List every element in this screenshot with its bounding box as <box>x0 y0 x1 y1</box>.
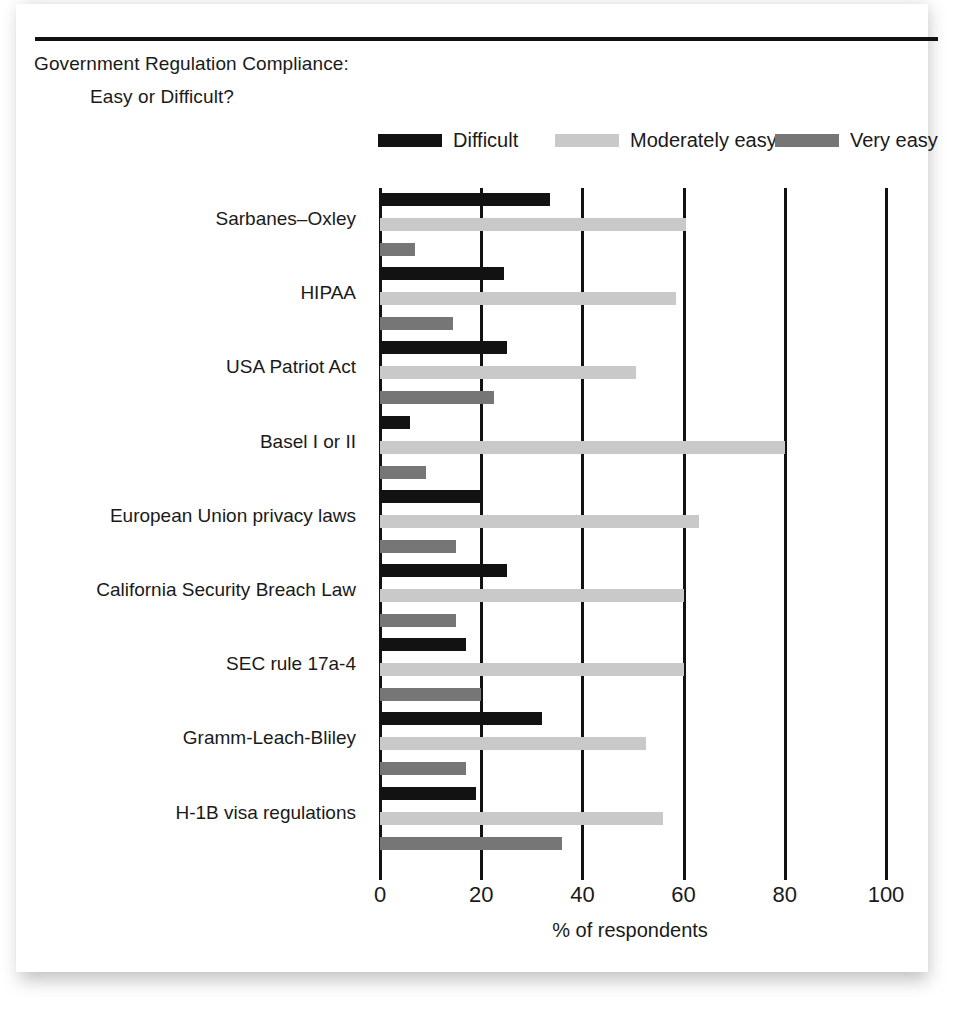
bar <box>380 638 466 651</box>
bar <box>380 466 426 479</box>
bar <box>380 663 684 676</box>
category-label: SEC rule 17a-4 <box>56 654 356 673</box>
bar <box>380 762 466 775</box>
x-tick-label-80: 80 <box>755 884 815 906</box>
grid-line-80 <box>784 188 787 863</box>
bar <box>380 712 542 725</box>
bar <box>380 540 456 553</box>
bar <box>380 564 507 577</box>
bar <box>380 391 494 404</box>
category-label: California Security Breach Law <box>56 580 356 599</box>
bar <box>380 515 699 528</box>
category-label: Gramm-Leach-Bliley <box>56 728 356 747</box>
x-tick-mark-0 <box>379 863 382 880</box>
category-label: USA Patriot Act <box>56 357 356 376</box>
x-tick-label-40: 40 <box>552 884 612 906</box>
bar <box>380 341 507 354</box>
bar <box>380 589 684 602</box>
chart-plot-area: 020406080100Sarbanes–OxleyHIPAAUSA Patri… <box>0 0 961 1021</box>
x-tick-label-100: 100 <box>856 884 916 906</box>
bar <box>380 441 785 454</box>
x-tick-label-60: 60 <box>654 884 714 906</box>
category-label: European Union privacy laws <box>56 506 356 525</box>
bar <box>380 218 686 231</box>
x-tick-label-20: 20 <box>451 884 511 906</box>
x-axis-title: % of respondents <box>380 920 880 940</box>
x-tick-mark-20 <box>480 863 483 880</box>
x-tick-mark-100 <box>885 863 888 880</box>
bar <box>380 490 481 503</box>
bar <box>380 787 476 800</box>
category-label: Basel I or II <box>56 432 356 451</box>
bar <box>380 366 636 379</box>
bar <box>380 267 504 280</box>
bar <box>380 416 410 429</box>
category-label: Sarbanes–Oxley <box>56 209 356 228</box>
category-label: HIPAA <box>56 283 356 302</box>
bar <box>380 614 456 627</box>
x-tick-mark-60 <box>683 863 686 880</box>
bar <box>380 243 415 256</box>
bar <box>380 193 550 206</box>
bar <box>380 317 453 330</box>
bar <box>380 737 646 750</box>
category-label: H-1B visa regulations <box>56 803 356 822</box>
x-tick-label-0: 0 <box>350 884 410 906</box>
bar <box>380 837 562 850</box>
x-tick-mark-40 <box>581 863 584 880</box>
bar <box>380 292 676 305</box>
grid-line-100 <box>885 188 888 863</box>
bar <box>380 688 481 701</box>
x-tick-mark-80 <box>784 863 787 880</box>
bar <box>380 812 663 825</box>
